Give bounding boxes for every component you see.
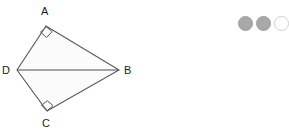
figure-canvas: A B C D [0, 0, 289, 135]
page-dot-1[interactable] [238, 16, 253, 31]
quadrilateral-abcd [17, 26, 119, 111]
vertex-label-c: C [42, 118, 50, 129]
vertex-label-a: A [41, 6, 48, 17]
page-dot-3[interactable] [274, 16, 289, 31]
vertex-label-b: B [124, 65, 131, 76]
vertex-label-d: D [2, 65, 10, 76]
page-indicator[interactable] [238, 15, 289, 31]
page-dot-2[interactable] [256, 16, 271, 31]
